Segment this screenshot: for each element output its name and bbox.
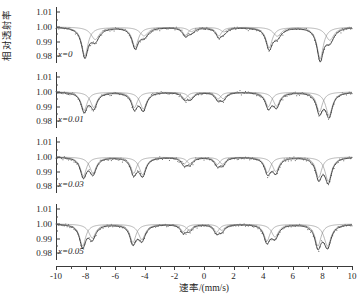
y-tick-label: 1.01 <box>36 7 56 17</box>
x-minor-tick <box>130 266 131 269</box>
spectrum-plot <box>56 7 352 63</box>
x-minor-tick <box>71 266 72 269</box>
y-tick-label: 1.00 <box>36 87 56 97</box>
x-tick-mark <box>174 266 175 270</box>
x-minor-tick <box>278 266 279 269</box>
spectrum-plot <box>56 204 352 260</box>
y-tick-label: 0.98 <box>36 51 56 61</box>
x-minor-tick <box>100 266 101 269</box>
x-minor-tick <box>337 266 338 269</box>
x-minor-tick <box>248 266 249 269</box>
spectrum-panel-3: 1.011.000.990.98x=0.05 <box>56 204 352 260</box>
mossbauer-spectra-figure: 相对透射率 1.011.000.990.98x=01.011.000.990.9… <box>0 0 364 303</box>
y-tick-label: 0.99 <box>36 37 56 47</box>
x-tick-mark <box>234 266 235 270</box>
y-tick-label: 1.00 <box>36 152 56 162</box>
x-tick-mark <box>263 266 264 270</box>
x-tick-mark <box>56 266 57 270</box>
y-tick-label: 0.98 <box>36 248 56 258</box>
spectrum-panel-1: 1.011.000.990.98x=0.01 <box>56 72 352 128</box>
y-tick-label: 0.99 <box>36 234 56 244</box>
y-axis-title: 相对透射率 <box>0 0 13 100</box>
spectrum-plot <box>56 137 352 193</box>
y-tick-label: 0.99 <box>36 167 56 177</box>
x-minor-tick <box>189 266 190 269</box>
panel-label-0: x=0 <box>58 49 73 59</box>
spectrum-plot <box>56 72 352 128</box>
x-tick-mark <box>352 266 353 270</box>
y-tick-label: 1.00 <box>36 22 56 32</box>
x-tick-mark <box>145 266 146 270</box>
x-axis-title: 速率/(mm/s) <box>56 280 352 294</box>
x-tick-mark <box>115 266 116 270</box>
y-tick-label: 1.01 <box>36 137 56 147</box>
x-axis: -10-8-6-4-20246810 <box>56 266 352 267</box>
y-tick-label: 1.00 <box>36 219 56 229</box>
panel-label-1: x=0.01 <box>58 114 84 124</box>
x-tick-mark <box>204 266 205 270</box>
panel-label-2: x=0.03 <box>58 179 84 189</box>
y-tick-label: 0.98 <box>36 181 56 191</box>
x-tick-mark <box>322 266 323 270</box>
y-tick-label: 1.01 <box>36 72 56 82</box>
x-tick-mark <box>86 266 87 270</box>
spectrum-panel-0: 1.011.000.990.98x=0 <box>56 7 352 63</box>
x-minor-tick <box>219 266 220 269</box>
y-tick-label: 1.01 <box>36 204 56 214</box>
x-tick-mark <box>293 266 294 270</box>
fitted-envelope <box>56 225 352 250</box>
y-tick-label: 0.99 <box>36 102 56 112</box>
y-axis-title-text: 相对透射率 <box>0 0 13 100</box>
x-minor-tick <box>160 266 161 269</box>
fitted-subspectrum-0 <box>56 27 352 58</box>
x-minor-tick <box>308 266 309 269</box>
data-points <box>56 27 353 63</box>
panel-label-3: x=0.05 <box>58 246 84 256</box>
spectrum-panel-2: 1.011.000.990.98x=0.03 <box>56 137 352 193</box>
y-tick-label: 0.98 <box>36 116 56 126</box>
fitted-envelope <box>56 158 352 185</box>
